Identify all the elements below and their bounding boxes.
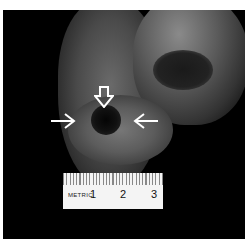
ruler-ticks: [63, 173, 163, 185]
metric-ruler: METRIC 1 2 3: [63, 173, 163, 209]
ruler-number-2: 2: [120, 188, 126, 200]
specimen-photo: METRIC 1 2 3: [3, 10, 245, 239]
central-opening: [91, 105, 121, 135]
arrow-right-icon: [50, 113, 76, 129]
arrow-left-icon: [133, 113, 159, 129]
ruler-number-3: 3: [151, 188, 157, 200]
ruler-number-1: 1: [90, 188, 96, 200]
arrow-down-icon: [94, 86, 114, 108]
